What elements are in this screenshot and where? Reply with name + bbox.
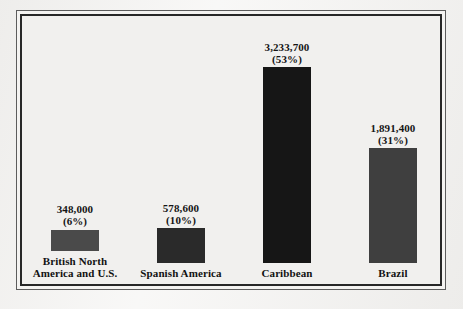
bar-percent-label: (31%): [371, 134, 416, 146]
bar-percent-label: (6%): [57, 215, 93, 227]
bar-value-label: 1,891,400(31%): [371, 122, 416, 147]
bar-rect: [263, 67, 311, 263]
bar-column: 348,000(6%)British North America and U.S…: [22, 12, 128, 284]
bar-group: 578,600(10%)Spanish America: [128, 16, 234, 284]
category-label: Caribbean: [261, 267, 312, 280]
bar-rect: [157, 228, 205, 263]
bar-rect: [369, 148, 417, 263]
plot-area: 348,000(6%)British North America and U.S…: [22, 16, 440, 284]
chart-frame-inner: 348,000(6%)British North America and U.S…: [20, 14, 442, 286]
category-label: Brazil: [378, 267, 407, 280]
bar-column: 578,600(10%)Spanish America: [128, 12, 234, 284]
category-label: British North America and U.S.: [33, 255, 118, 280]
bar-group: 1,891,400(31%)Brazil: [340, 16, 446, 284]
bar-value-label: 3,233,700(53%): [265, 41, 310, 66]
bar-column: 3,233,700(53%)Caribbean: [234, 12, 340, 284]
bar-value-label: 578,600(10%): [163, 202, 199, 227]
bar-percent-label: (53%): [265, 53, 310, 65]
bar-value-label: 348,000(6%): [57, 203, 93, 228]
category-label: Spanish America: [140, 267, 221, 280]
chart-frame-outer: 348,000(6%)British North America and U.S…: [16, 10, 446, 290]
bar-rect: [51, 230, 99, 251]
bar-group: 3,233,700(53%)Caribbean: [234, 16, 340, 284]
bar-column: 1,891,400(31%)Brazil: [340, 12, 446, 284]
bar-percent-label: (10%): [163, 214, 199, 226]
bar-group: 348,000(6%)British North America and U.S…: [22, 16, 128, 284]
